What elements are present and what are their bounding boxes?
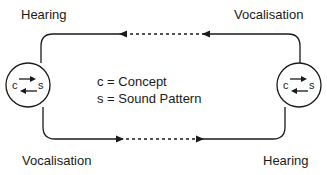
sound-letter: s bbox=[309, 79, 315, 91]
label-vocalisation-top-right: Vocalisation bbox=[234, 8, 303, 22]
concept-letter: c bbox=[12, 79, 18, 91]
top-connection bbox=[41, 31, 300, 64]
bottom-connection bbox=[43, 107, 285, 143]
arrow-left-icon bbox=[119, 31, 127, 38]
legend: c = Concept s = Sound Pattern bbox=[97, 73, 201, 107]
legend-sound-pattern: s = Sound Pattern bbox=[97, 90, 201, 107]
sound-letter: s bbox=[38, 79, 44, 91]
legend-concept: c = Concept bbox=[97, 73, 201, 90]
label-hearing-bottom-right: Hearing bbox=[263, 154, 309, 168]
label-vocalisation-bottom-left: Vocalisation bbox=[22, 154, 91, 168]
arrow-right-icon bbox=[116, 136, 124, 143]
right-speaker-node: c s bbox=[277, 63, 321, 107]
arrow-right-icon bbox=[196, 136, 204, 143]
arrow-left-icon bbox=[202, 31, 210, 38]
left-speaker-node: c s bbox=[6, 63, 50, 107]
concept-letter: c bbox=[283, 79, 289, 91]
label-hearing-top-left: Hearing bbox=[21, 8, 67, 22]
